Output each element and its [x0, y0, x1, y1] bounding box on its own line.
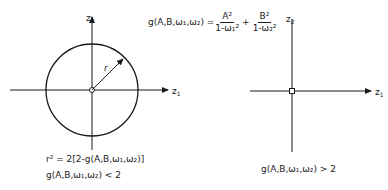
term1-fraction: A² 1-ω₁² — [215, 12, 239, 33]
left-condition: g(A,B,ω₁,ω₂) < 2 — [46, 171, 121, 180]
radius-label: r — [104, 64, 108, 73]
g-formula: g(A,B,ω₁,ω₂) = A² 1-ω₁² + B² 1-ω₂² — [148, 12, 277, 33]
left-z2-label: z2 — [86, 14, 95, 24]
right-z1-label: z1 — [375, 88, 384, 98]
right-diagram — [250, 19, 371, 152]
plus-sign: + — [242, 18, 250, 27]
left-z1-label: z1 — [172, 87, 181, 97]
right-z2-label: z2 — [286, 15, 295, 25]
left-diagram — [10, 17, 168, 150]
radius-equation: r² = 2[2-g(A,B,ω₁,ω₂)] — [46, 155, 144, 164]
formula-lhs: g(A,B,ω₁,ω₂) = — [148, 18, 214, 27]
right-condition: g(A,B,ω₁,ω₂) > 2 — [261, 165, 336, 174]
term2-fraction: B² 1-ω₂² — [253, 12, 277, 33]
origin-marker-right — [290, 89, 295, 94]
